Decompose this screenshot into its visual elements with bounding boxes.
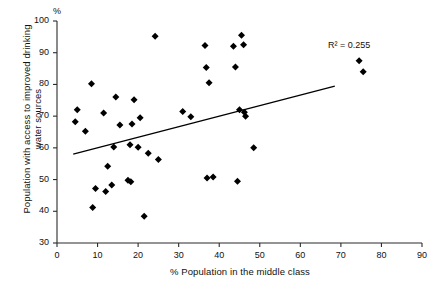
data-point-marker [82,128,89,135]
data-point-marker [141,213,148,220]
data-point-marker [108,181,115,188]
data-point-marker [250,144,257,151]
x-tick-label: 50 [245,250,275,260]
x-axis-ticks [57,243,422,247]
y-tick-label: 90 [0,47,49,57]
data-point-marker [187,113,194,120]
x-tick-label: 90 [407,250,437,260]
data-point-marker [360,68,367,75]
data-point-marker [145,150,152,157]
data-point-marker [137,114,144,121]
y-tick-label: 100 [0,15,49,25]
data-point-marker [203,64,210,71]
x-tick-label: 10 [83,250,113,260]
data-point-marker [240,41,247,48]
data-point-marker [127,141,134,148]
data-point-marker [131,96,138,103]
x-tick-label: 40 [204,250,234,260]
data-point-marker [210,174,217,181]
data-point-marker [232,63,239,70]
data-point-marker [238,32,245,39]
data-point-marker [74,106,81,113]
data-point-marker [234,178,241,185]
y-tick-label: 30 [0,237,49,247]
data-point-marker [92,185,99,192]
scatter-chart: % R² = 0.255 Population with access to i… [0,0,440,289]
data-point-marker [179,108,186,115]
data-point-marker [152,33,159,40]
data-point-marker [112,94,119,101]
y-tick-label: 50 [0,174,49,184]
axes [57,21,422,243]
data-point-marker [206,79,213,86]
x-tick-label: 30 [164,250,194,260]
x-tick-label: 60 [285,250,315,260]
data-point-marker [89,204,96,211]
data-point-marker [116,122,123,129]
data-point-marker [100,109,107,116]
y-tick-label: 70 [0,110,49,120]
data-point-marker [102,188,109,195]
data-point-marker [204,174,211,181]
x-tick-label: 80 [366,250,396,260]
y-tick-label: 60 [0,142,49,152]
data-point-marker [155,156,162,163]
data-point-marker [104,163,111,170]
trendline [73,86,335,154]
data-point-marker [356,57,363,64]
x-tick-label: 20 [123,250,153,260]
data-point-marker [202,42,209,49]
x-tick-label: 0 [42,250,72,260]
y-tick-label: 40 [0,205,49,215]
data-point-marker [230,43,237,50]
plot-area [0,0,440,289]
trendline-segment [73,86,335,154]
data-point-marker [135,144,142,151]
x-tick-label: 70 [326,250,356,260]
data-point-marker [72,118,79,125]
data-point-marker [88,80,95,87]
data-point-marker [129,121,136,128]
y-tick-label: 80 [0,78,49,88]
y-axis-ticks [53,21,57,243]
data-points [72,32,367,220]
